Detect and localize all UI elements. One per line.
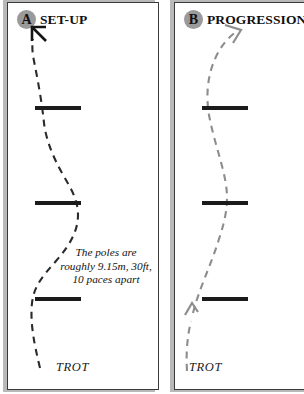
gait-label-a: TROT — [56, 360, 89, 375]
note-line-1: The poles are — [56, 246, 156, 260]
pole-spacing-note: The poles are roughly 9.15m, 30ft, 10 pa… — [56, 246, 156, 287]
entry-arrowhead-b — [185, 303, 198, 315]
panel-a-artwork — [8, 3, 158, 389]
gait-label-b: TROT — [189, 360, 222, 375]
direction-arrowhead-a-tail — [32, 27, 46, 41]
horse-track-path-b — [193, 31, 237, 313]
panel-progression: B PROGRESSION TROT — [174, 2, 304, 390]
panel-b-artwork — [175, 3, 304, 389]
panel-set-up: A SET-UP The poles are roughly 9.15m, 30… — [7, 2, 159, 390]
figure-root: A SET-UP The poles are roughly 9.15m, 30… — [0, 0, 304, 394]
note-line-3: 10 paces apart — [56, 273, 156, 287]
note-line-2: roughly 9.15m, 30ft, — [56, 260, 156, 274]
